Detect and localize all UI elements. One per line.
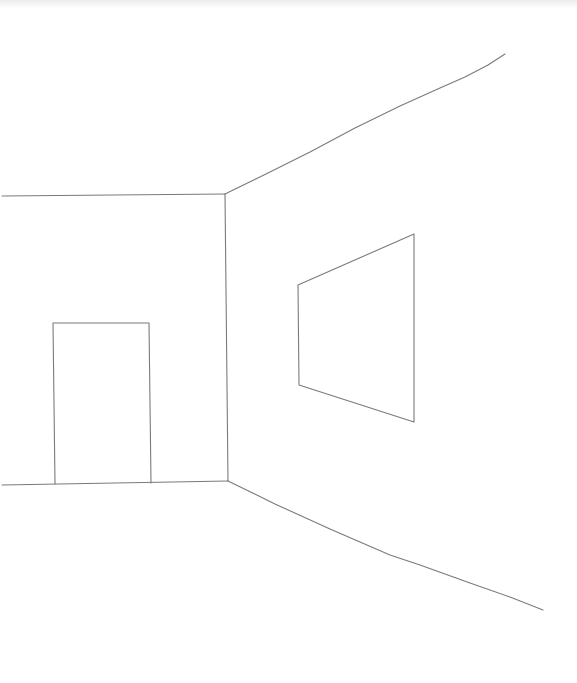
door-outline [53,323,151,484]
side-wall-floor-edge [228,481,543,610]
side-wall-ceiling-edge [225,54,505,194]
drawing-canvas [0,0,577,683]
back-wall-floor-edge [2,481,228,485]
room-corner-edge [225,194,228,481]
room-sketch [0,0,577,683]
window-outline [298,234,414,422]
back-wall-ceiling-edge [2,194,225,196]
